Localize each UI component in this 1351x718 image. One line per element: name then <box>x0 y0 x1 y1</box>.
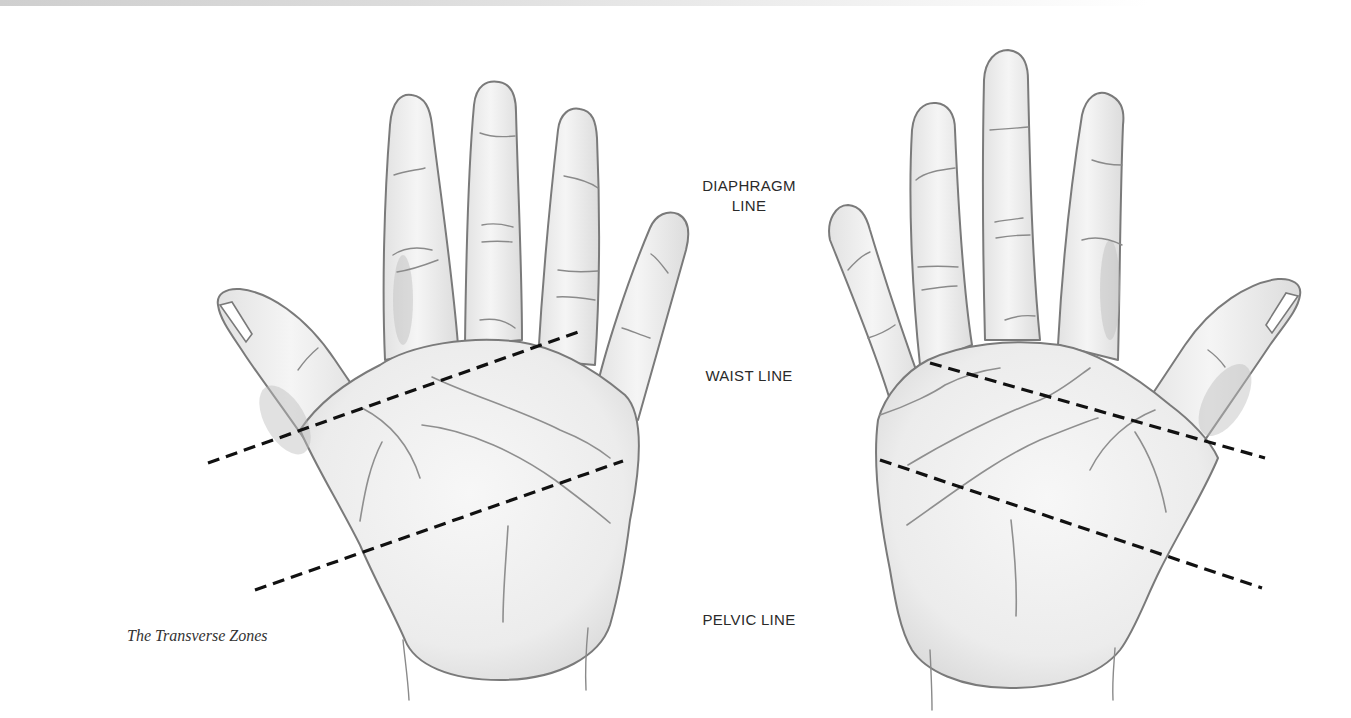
right-middle-finger <box>983 50 1040 340</box>
left-hand <box>218 82 689 700</box>
left-ring-finger <box>538 109 599 365</box>
diaphragm-label-line1: DIAPHRAGM <box>649 176 849 196</box>
left-index-shade <box>393 255 413 345</box>
right-index-shade <box>1100 240 1120 340</box>
diaphragm-label-line2: LINE <box>649 196 849 216</box>
right-ring-finger <box>910 103 972 365</box>
right-crease <box>918 266 958 267</box>
left-crease <box>482 241 512 242</box>
diaphragm-line-label: DIAPHRAGM LINE <box>649 176 849 216</box>
left-middle-finger <box>465 82 522 345</box>
waist-line-label: WAIST LINE <box>649 366 849 386</box>
figure-caption: The Transverse Zones <box>127 627 267 645</box>
pelvic-line-label: PELVIC LINE <box>649 610 849 630</box>
right-hand <box>829 50 1300 710</box>
left-wrist-left <box>403 640 409 700</box>
